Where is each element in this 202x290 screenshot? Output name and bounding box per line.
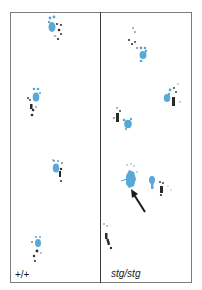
arrow-icon bbox=[131, 189, 145, 212]
footprint-right-splayed bbox=[121, 163, 138, 188]
genotype-label-wild-type: +/+ bbox=[15, 269, 29, 280]
footprint-drawing bbox=[0, 0, 202, 290]
footprint-right-1 bbox=[128, 27, 147, 62]
footprint-right-2 bbox=[164, 83, 181, 106]
genotype-label-stargazer: stg/stg bbox=[111, 268, 140, 279]
footprint-right-5 bbox=[149, 176, 172, 196]
footprint-left-1 bbox=[48, 16, 62, 41]
footprint-left-2 bbox=[27, 88, 41, 117]
footprint-right-6 bbox=[103, 223, 112, 249]
footprint-left-4 bbox=[31, 236, 42, 262]
footprint-left-3 bbox=[52, 159, 63, 182]
footprint-right-3 bbox=[113, 107, 132, 130]
